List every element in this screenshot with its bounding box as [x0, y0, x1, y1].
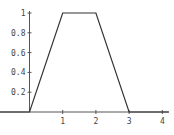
x-tick-label: 4	[160, 117, 165, 126]
y-tick-label: 0.8	[11, 29, 26, 38]
y-ticks: 0.20.40.60.81	[11, 9, 31, 97]
y-tick-label: 0.4	[11, 68, 26, 77]
y-tick-label: 0.6	[11, 49, 26, 58]
y-tick-label: 0.2	[11, 88, 26, 97]
x-tick-label: 1	[60, 117, 65, 126]
x-tick-label: 2	[93, 117, 98, 126]
chart: 1234 0.20.40.60.81	[0, 0, 174, 135]
y-tick-label: 1	[21, 9, 26, 18]
x-tick-label: 3	[127, 117, 132, 126]
